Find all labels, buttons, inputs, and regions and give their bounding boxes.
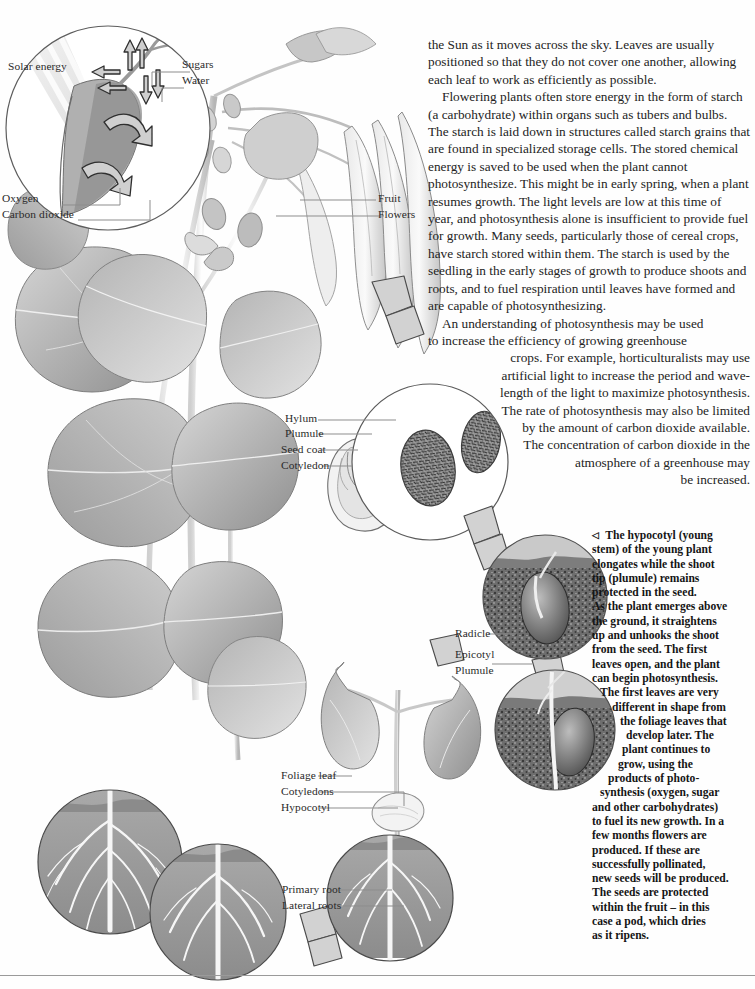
caption-line: stem) of the young plant xyxy=(592,543,752,557)
caption-line: can begin photosynthesis. xyxy=(592,672,752,686)
body-line: length of the light to maximize photosyn… xyxy=(458,384,750,401)
caption-line: to fuel its new growth. In a xyxy=(592,815,752,829)
caption-line: within the fruit – in this xyxy=(592,901,752,915)
caption-line: leaves open, and the plant xyxy=(592,658,752,672)
caption-line: successfully pollinated, xyxy=(592,858,752,872)
label-sugars: Sugars xyxy=(182,58,214,70)
label-cotyledons: Cotyledons xyxy=(281,785,334,797)
label-flowers: Flowers xyxy=(378,208,415,220)
label-solar-energy: Solar energy xyxy=(8,60,67,72)
body-line: atmosphere of a greenhouse may xyxy=(518,454,750,471)
body-line: to increase the efficiency of growing gr… xyxy=(428,332,750,349)
encyclopedia-page: the Sun as it moves across the sky. Leav… xyxy=(0,0,755,989)
article-body: the Sun as it moves across the sky. Leav… xyxy=(428,36,750,489)
page-rule xyxy=(0,975,755,976)
caption-line: up and unhooks the shoot xyxy=(592,629,752,643)
body-line: crops. For example, horticulturalists ma… xyxy=(440,349,750,366)
seedling xyxy=(321,662,480,860)
caption-line: different in shape from xyxy=(592,701,752,715)
label-epicotyl: Epicotyl xyxy=(455,648,494,660)
body-line: The concentration of carbon dioxide in t… xyxy=(478,436,750,453)
body-paragraph: the Sun as it moves across the sky. Leav… xyxy=(428,36,750,88)
label-radicle: Radicle xyxy=(455,627,491,639)
caption-line: plant continues to xyxy=(592,743,752,757)
caption-line: The seeds are protected xyxy=(592,886,752,900)
caption-marker-icon: ◁ xyxy=(592,530,605,540)
caption-line: few months flowers are xyxy=(592,829,752,843)
caption-line: as it ripens. xyxy=(592,929,752,943)
caption-line: protected in the seed. xyxy=(592,586,752,600)
caption-line: case a pod, which dries xyxy=(592,915,752,929)
label-lateral-roots: Lateral roots xyxy=(282,899,341,911)
label-plumule-seedling: Plumule xyxy=(455,664,494,676)
label-fruit: Fruit xyxy=(378,192,401,204)
label-foliage-leaf: Foliage leaf xyxy=(281,769,336,781)
caption-line: The first leaves are very xyxy=(592,686,752,700)
label-plumule-seed: Plumule xyxy=(285,427,324,439)
body-line: The rate of photosynthesis may also be l… xyxy=(462,402,750,419)
label-seed-coat: Seed coat xyxy=(281,443,326,455)
caption-line: the ground, it straightens xyxy=(592,615,752,629)
body-line: An understanding of photosynthesis may b… xyxy=(428,315,750,332)
body-paragraph: Flowering plants often store energy in t… xyxy=(428,88,750,314)
germination-vignette-1 xyxy=(483,535,607,660)
caption-line: ◁ The hypocotyl (young xyxy=(592,528,752,543)
figure-caption: ◁ The hypocotyl (youngstem) of the young… xyxy=(592,528,752,944)
flowers xyxy=(185,233,234,271)
label-cotyledon: Cotyledon xyxy=(281,459,329,471)
caption-line: As the plant emerges above xyxy=(592,600,752,614)
label-oxygen: Oxygen xyxy=(2,192,39,204)
body-line: be increased. xyxy=(550,471,750,488)
label-water: Water xyxy=(182,74,209,86)
body-line: artificial light to increase the period … xyxy=(450,367,750,384)
label-primary-root: Primary root xyxy=(282,883,341,895)
caption-line: products of photo- xyxy=(592,772,752,786)
body-line: by the amount of carbon dioxide availabl… xyxy=(470,419,750,436)
caption-line: elongates while the shoot xyxy=(592,558,752,572)
label-hylum: Hylum xyxy=(285,412,317,424)
label-carbon-dioxide: Carbon dioxide xyxy=(2,208,74,220)
caption-line: tip (plumule) remains xyxy=(592,572,752,586)
caption-line: and other carbohydrates) xyxy=(592,801,752,815)
caption-line: from the seed. The first xyxy=(592,643,752,657)
label-hypocotyl: Hypocotyl xyxy=(281,801,330,813)
caption-line: the foliage leaves that xyxy=(592,715,752,729)
caption-line: produced. If these are xyxy=(592,844,752,858)
caption-line: new seeds will be produced. xyxy=(592,872,752,886)
caption-line: grow, using the xyxy=(592,758,752,772)
caption-line: develop later. The xyxy=(592,729,752,743)
caption-line: synthesis (oxygen, sugar xyxy=(592,786,752,800)
